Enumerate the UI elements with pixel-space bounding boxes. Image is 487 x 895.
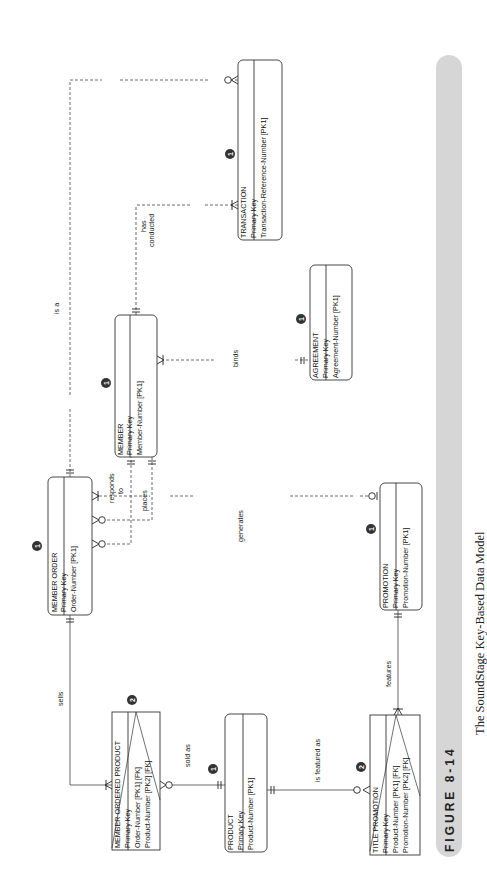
rel-label-is-featured-as: is featured as (313, 738, 322, 782)
figure-title: The SoundStage Key-Based Data Model (473, 531, 487, 735)
badge-icon: 1 (208, 764, 218, 774)
badge-icon: 2 (356, 762, 366, 772)
entity-key-label: Primary Key (391, 568, 400, 608)
entity-name: PRODUCT (226, 814, 235, 850)
entity-key-label: Primary Key (125, 415, 134, 455)
rel-label-is-a: is a (52, 303, 61, 314)
er-diagram: MEMBER ORDER Primary Key Order-Number [P… (0, 0, 487, 895)
badge-icon: 1 (225, 149, 235, 159)
rel-line-sells (70, 615, 112, 785)
svg-text:2: 2 (129, 698, 136, 702)
svg-text:1: 1 (210, 767, 217, 771)
cardinality-one-icon (301, 357, 304, 364)
svg-text:1: 1 (34, 544, 41, 548)
entity-name: MEMBER ORDER (50, 552, 59, 612)
rel-label-generates: generates (236, 510, 245, 542)
entity-key-label: Primary Key (236, 810, 245, 850)
entity-name: TITLE PROMOTION (371, 787, 380, 853)
badge-icon: 1 (32, 541, 42, 551)
entity-attribute: Promotion-Number [PK2] [FK] (401, 758, 410, 853)
crows-foot-one-many-icon (157, 355, 164, 365)
entity-attribute: Product-Number [PK2] [FK] (143, 761, 152, 848)
cardinality-zero-one-icon (369, 492, 377, 500)
svg-text:1: 1 (368, 527, 375, 531)
rel-label-binds: binds (231, 349, 240, 367)
svg-text:1: 1 (227, 152, 234, 156)
rel-label-places: places (140, 490, 149, 511)
entity-name: AGREEMENT (311, 332, 320, 378)
crows-foot-zero-many-icon (160, 781, 172, 789)
caption-band (436, 55, 462, 857)
entity-attribute: Product-Number [PK1] [FK] (391, 766, 400, 853)
entity-key-label: Primary Key (59, 572, 68, 612)
crows-foot-zero-many-icon (354, 786, 370, 794)
entity-name: MEMBER ORDERED PRODUCT (113, 740, 122, 848)
entity-attribute: Member-Number [PK1] (135, 381, 144, 455)
svg-text:1: 1 (103, 381, 110, 385)
entity-key-label: Primary Key (381, 813, 390, 853)
entity-name: TRANSACTION (239, 186, 248, 238)
entity-key-label: Primary Key (123, 808, 132, 848)
badge-icon: 2 (127, 695, 137, 705)
badge-icon: 1 (366, 524, 376, 534)
crows-foot-zero-many-icon (92, 516, 105, 524)
entity-attribute: Order-Number [PK1] (69, 546, 78, 612)
rel-label-responds: responds (107, 473, 116, 503)
rel-label-features: features (384, 661, 393, 687)
rel-label-sold-as: sold as (183, 744, 192, 767)
badge-icon: 1 (101, 378, 111, 388)
svg-text:1: 1 (298, 317, 305, 321)
entity-attribute: Product-Number [PK1] (246, 778, 255, 850)
entity-attribute: Promotion-Number [PK1] (401, 528, 410, 608)
crows-foot-zero-many-icon (92, 540, 105, 548)
entity-attribute: Agreement-Number [PK1] (331, 295, 340, 378)
rel-label-to: to (116, 488, 125, 494)
entity-key-label: Primary Key (249, 198, 258, 238)
svg-text:2: 2 (358, 765, 365, 769)
entity-key-label: Primary Key (321, 338, 330, 378)
entity-name: PROMOTION (381, 564, 390, 608)
entity-attribute: Transaction-Reference-Number [PK1] (259, 118, 268, 238)
rel-label-sells: sells (56, 691, 65, 706)
entity-name: MEMBER (116, 423, 125, 455)
badge-icon: 1 (296, 314, 306, 324)
figure-label: FIGURE 8-14 (443, 746, 457, 852)
entity-attribute: Order-Number [PK1] [FK] (133, 767, 142, 848)
rel-label-conducted: conducted (147, 214, 156, 247)
crows-foot-one-many-icon (92, 491, 99, 501)
